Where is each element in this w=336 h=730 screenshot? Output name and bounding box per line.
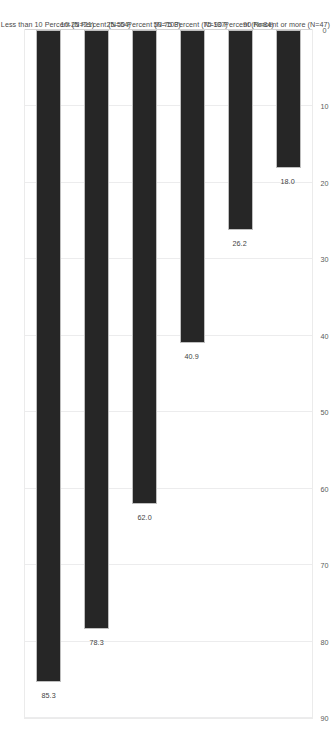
gridline xyxy=(25,641,312,642)
bar[interactable] xyxy=(36,30,61,682)
bar-value-label: 62.0 xyxy=(132,514,156,521)
category-label: 90 Percent or more (N=47) xyxy=(232,21,336,28)
value-tick-label: 40 xyxy=(315,333,335,340)
gridline xyxy=(25,564,312,565)
gridline xyxy=(25,182,312,183)
value-tick-label: 20 xyxy=(315,180,335,187)
gridline xyxy=(25,335,312,336)
chart-canvas: 85.378.362.040.926.218.0 908070605040302… xyxy=(0,0,336,730)
value-tick-label: 50 xyxy=(315,410,335,417)
bar-value-label: 18.0 xyxy=(276,178,300,185)
bar-value-label: 26.2 xyxy=(228,241,252,248)
plot-area: 85.378.362.040.926.218.0 xyxy=(25,30,312,718)
bar-row xyxy=(36,30,61,718)
value-tick-label: 90 xyxy=(315,715,335,722)
bar-row xyxy=(276,30,301,718)
gridline xyxy=(25,411,312,412)
plot-frame: 85.378.362.040.926.218.0 xyxy=(24,29,313,719)
bar[interactable] xyxy=(84,30,109,629)
bar-value-label: 85.3 xyxy=(37,692,61,699)
bar[interactable] xyxy=(276,30,301,168)
bar[interactable] xyxy=(132,30,157,504)
gridline xyxy=(25,105,312,106)
bar-row xyxy=(228,30,253,718)
value-tick-label: 10 xyxy=(315,104,335,111)
value-tick-label: 30 xyxy=(315,257,335,264)
value-tick-label: 80 xyxy=(315,639,335,646)
bar-row xyxy=(132,30,157,718)
gridline xyxy=(25,488,312,489)
bar-row xyxy=(84,30,109,718)
value-tick-label: 70 xyxy=(315,563,335,570)
bar-row xyxy=(180,30,205,718)
bar-chart-figure: 85.378.362.040.926.218.0 908070605040302… xyxy=(0,0,336,730)
bar[interactable] xyxy=(228,30,253,230)
gridline xyxy=(25,717,312,718)
value-tick-label: 60 xyxy=(315,486,335,493)
gridline xyxy=(25,258,312,259)
bar-value-label: 78.3 xyxy=(84,639,108,646)
bar[interactable] xyxy=(180,30,205,343)
bar-value-label: 40.9 xyxy=(180,353,204,360)
